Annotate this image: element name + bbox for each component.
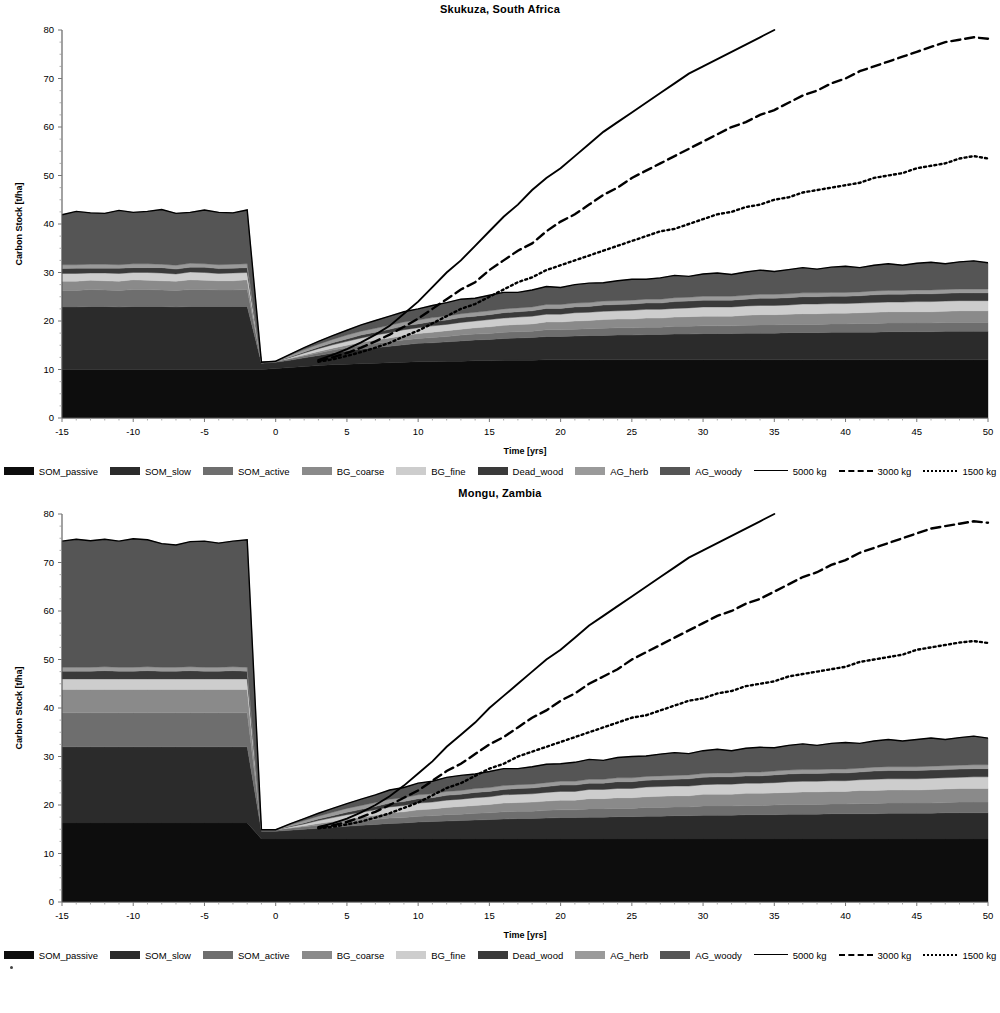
panel-skukuza: Skukuza, South Africa 01020304050607080-… [0,0,1000,484]
legend-swatch-BG_fine [396,467,426,475]
x-axis-title: Time [yrs] [504,930,547,940]
x-tick-label: -10 [126,910,140,921]
legend-linestyle-solid [754,466,788,476]
y-tick-label: 0 [49,412,54,423]
panel-mongu: Mongu, Zambia 01020304050607080-15-10-50… [0,484,1000,968]
x-tick-label: 20 [555,910,566,921]
legend-item-BG_coarse[interactable]: BG_coarse [302,466,385,477]
legend-swatch-AG_herb [575,951,605,959]
legend-label-BG_fine: BG_fine [431,466,465,477]
chart-svg-mongu: 01020304050607080-15-10-5051015202530354… [0,502,1000,942]
chart-svg-skukuza: 01020304050607080-15-10-5051015202530354… [0,18,1000,458]
legend-swatch-BG_coarse [302,951,332,959]
legend-item-SOM_slow[interactable]: SOM_slow [110,950,191,961]
legend-label-AG_herb: AG_herb [610,950,648,961]
chart-title-mongu: Mongu, Zambia [0,484,1000,502]
x-tick-label: 5 [344,910,349,921]
chart-title-skukuza: Skukuza, South Africa [0,0,1000,18]
x-tick-label: 15 [484,426,495,437]
y-tick-label: 60 [43,605,54,616]
y-tick-label: 30 [43,267,54,278]
chart-area-mongu: 01020304050607080-15-10-5051015202530354… [0,502,1000,942]
x-tick-label: 45 [911,910,922,921]
legend-swatch-BG_fine [396,951,426,959]
legend-label-AG_woody: AG_woody [695,466,741,477]
y-tick-label: 80 [43,508,54,519]
y-tick-label: 10 [43,848,54,859]
legend-linestyle-dashed [839,950,873,960]
legend-label-BG_fine: BG_fine [431,950,465,961]
legend-swatch-SOM_active [203,467,233,475]
figure-root: Skukuza, South Africa 01020304050607080-… [0,0,1000,1013]
legend-label-BG_coarse: BG_coarse [337,466,385,477]
x-tick-label: 20 [555,426,566,437]
x-tick-label: 0 [273,910,278,921]
page-artifact-dot [10,966,13,969]
y-tick-label: 30 [43,751,54,762]
legend-item-Dead_wood[interactable]: Dead_wood [478,466,564,477]
legend-skukuza: SOM_passiveSOM_slowSOM_activeBG_coarseBG… [0,458,1000,484]
legend-swatch-SOM_active [203,951,233,959]
x-tick-label: -5 [200,910,208,921]
legend-item-3000-kg[interactable]: 3000 kg [839,466,912,477]
legend-swatch-Dead_wood [478,467,508,475]
x-tick-label: 50 [983,426,994,437]
legend-swatch-Dead_wood [478,951,508,959]
legend-item-Dead_wood[interactable]: Dead_wood [478,950,564,961]
legend-item-SOM_active[interactable]: SOM_active [203,950,290,961]
legend-item-AG_herb[interactable]: AG_herb [575,950,648,961]
legend-label-5000-kg: 5000 kg [793,950,827,961]
y-axis-title: Carbon Stock [t/ha] [14,666,24,749]
legend-item-AG_woody[interactable]: AG_woody [660,466,741,477]
legend-item-1500-kg[interactable]: 1500 kg [923,466,996,477]
y-axis-title: Carbon Stock [t/ha] [14,182,24,265]
legend-item-SOM_slow[interactable]: SOM_slow [110,466,191,477]
x-tick-label: 40 [840,910,851,921]
legend-item-SOM_passive[interactable]: SOM_passive [4,950,98,961]
legend-item-5000-kg[interactable]: 5000 kg [754,950,827,961]
x-tick-label: 25 [627,910,638,921]
legend-item-3000-kg[interactable]: 3000 kg [839,950,912,961]
legend-label-3000-kg: 3000 kg [878,950,912,961]
y-tick-label: 70 [43,557,54,568]
x-tick-label: -10 [126,426,140,437]
y-tick-label: 70 [43,73,54,84]
x-tick-label: 30 [698,426,709,437]
x-tick-label: 50 [983,910,994,921]
legend-item-BG_coarse[interactable]: BG_coarse [302,950,385,961]
legend-swatch-SOM_passive [4,951,34,959]
legend-item-BG_fine[interactable]: BG_fine [396,950,465,961]
x-tick-label: 10 [413,426,424,437]
legend-item-AG_woody[interactable]: AG_woody [660,950,741,961]
x-tick-label: -15 [55,426,69,437]
x-tick-label: 15 [484,910,495,921]
legend-mongu: SOM_passiveSOM_slowSOM_activeBG_coarseBG… [0,942,1000,968]
legend-item-AG_herb[interactable]: AG_herb [575,466,648,477]
legend-label-SOM_slow: SOM_slow [145,466,191,477]
x-tick-label: 45 [911,426,922,437]
legend-swatch-AG_woody [660,951,690,959]
legend-label-SOM_passive: SOM_passive [39,950,98,961]
x-tick-label: 0 [273,426,278,437]
legend-swatch-AG_herb [575,467,605,475]
legend-linestyle-dotted [923,466,957,476]
legend-item-1500-kg[interactable]: 1500 kg [923,950,996,961]
legend-item-5000-kg[interactable]: 5000 kg [754,466,827,477]
x-tick-label: -15 [55,910,69,921]
legend-item-BG_fine[interactable]: BG_fine [396,466,465,477]
legend-label-SOM_active: SOM_active [238,466,290,477]
legend-label-SOM_passive: SOM_passive [39,466,98,477]
legend-item-SOM_active[interactable]: SOM_active [203,466,290,477]
legend-item-SOM_passive[interactable]: SOM_passive [4,466,98,477]
y-tick-label: 20 [43,799,54,810]
legend-linestyle-solid [754,950,788,960]
legend-label-AG_herb: AG_herb [610,466,648,477]
legend-label-1500-kg: 1500 kg [962,466,996,477]
y-tick-label: 10 [43,364,54,375]
x-tick-label: 35 [769,910,780,921]
legend-swatch-SOM_slow [110,467,140,475]
y-tick-label: 50 [43,170,54,181]
legend-linestyle-dotted [923,950,957,960]
y-tick-label: 80 [43,24,54,35]
legend-swatch-AG_woody [660,467,690,475]
